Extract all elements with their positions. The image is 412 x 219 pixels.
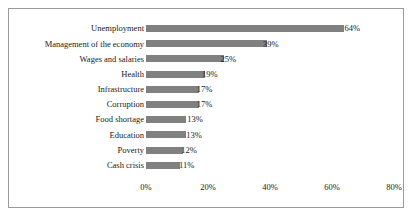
category-label: Corruption [107, 100, 144, 109]
bar-zone: 13% [146, 112, 403, 127]
bar [146, 162, 180, 169]
bar [146, 116, 186, 123]
bar-row: Wages and salaries 25% [9, 51, 403, 66]
category-label: Wages and salaries [80, 55, 144, 64]
plot-area: Unemployment 64% Management of the econo… [9, 9, 403, 207]
bar-row: Management of the economy 39% [9, 36, 403, 51]
bar-value-label: 17% [197, 100, 213, 109]
bar-row: Unemployment 64% [9, 21, 403, 36]
bar [146, 86, 199, 93]
bar-value-label: 17% [197, 85, 213, 94]
x-tick-label: 80% [386, 183, 402, 192]
category-label: Food shortage [96, 115, 144, 124]
category-label: Infrastructure [98, 85, 144, 94]
bar-zone: 12% [146, 143, 403, 158]
bar [146, 71, 205, 78]
bar-value-label: 64% [344, 24, 360, 33]
bar-zone: 64% [146, 21, 403, 36]
bar-value-label: 13% [187, 115, 203, 124]
bar-zone: 13% [146, 127, 403, 142]
chart-frame: Unemployment 64% Management of the econo… [8, 8, 404, 208]
category-label: Cash crisis [107, 161, 144, 170]
bar [146, 55, 224, 62]
bar-row: Poverty 12% [9, 143, 403, 158]
bar-zone: 17% [146, 82, 403, 97]
bar-value-label: 19% [202, 70, 218, 79]
bar-value-label: 11% [179, 161, 194, 170]
bar-value-label: 25% [221, 55, 237, 64]
bar-row: Food shortage 13% [9, 112, 403, 127]
bar-zone: 25% [146, 51, 403, 66]
x-tick-label: 20% [200, 183, 216, 192]
bar-zone: 39% [146, 36, 403, 51]
category-label: Management of the economy [45, 40, 144, 49]
x-axis: 0% 20% 40% 60% 80% [146, 173, 403, 203]
bar-row: Infrastructure 17% [9, 82, 403, 97]
bar-zone: 11% [146, 158, 403, 173]
bar [146, 101, 199, 108]
bar-value-label: 13% [186, 131, 202, 140]
bar [146, 131, 186, 138]
bar-zone: 19% [146, 67, 403, 82]
bar [146, 40, 267, 47]
bar-row: Health 19% [9, 67, 403, 82]
bar [146, 147, 183, 154]
x-tick-label: 0% [140, 183, 151, 192]
bar-zone: 17% [146, 97, 403, 112]
category-label: Education [110, 131, 144, 140]
category-label: Health [121, 70, 144, 79]
x-tick-label: 60% [324, 183, 340, 192]
bar-rows: Unemployment 64% Management of the econo… [9, 21, 403, 173]
category-label: Unemployment [91, 24, 144, 33]
category-label: Poverty [118, 146, 144, 155]
x-tick-label: 40% [262, 183, 278, 192]
bar-row: Corruption 17% [9, 97, 403, 112]
bar-row: Cash crisis 11% [9, 158, 403, 173]
bar-value-label: 12% [181, 146, 197, 155]
bar [146, 25, 344, 32]
bar-row: Education 13% [9, 127, 403, 142]
bar-value-label: 39% [263, 40, 279, 49]
